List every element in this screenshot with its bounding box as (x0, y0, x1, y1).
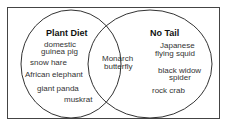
item-rock-crab: rock crab (152, 87, 185, 95)
no-tail-title: No Tail (150, 29, 179, 37)
item-flying-squid: flying squid (155, 50, 195, 58)
item-guinea-pig: guinea pig (41, 48, 78, 56)
item-butterfly: butterfly (104, 63, 132, 71)
plant-diet-title: Plant Diet (46, 29, 88, 37)
item-giant-panda: giant panda (37, 85, 79, 93)
item-spider: spider (169, 74, 191, 82)
item-snow-hare: snow hare (30, 59, 67, 67)
item-muskrat: muskrat (64, 96, 92, 104)
item-african-elephant: African elephant (25, 71, 83, 79)
